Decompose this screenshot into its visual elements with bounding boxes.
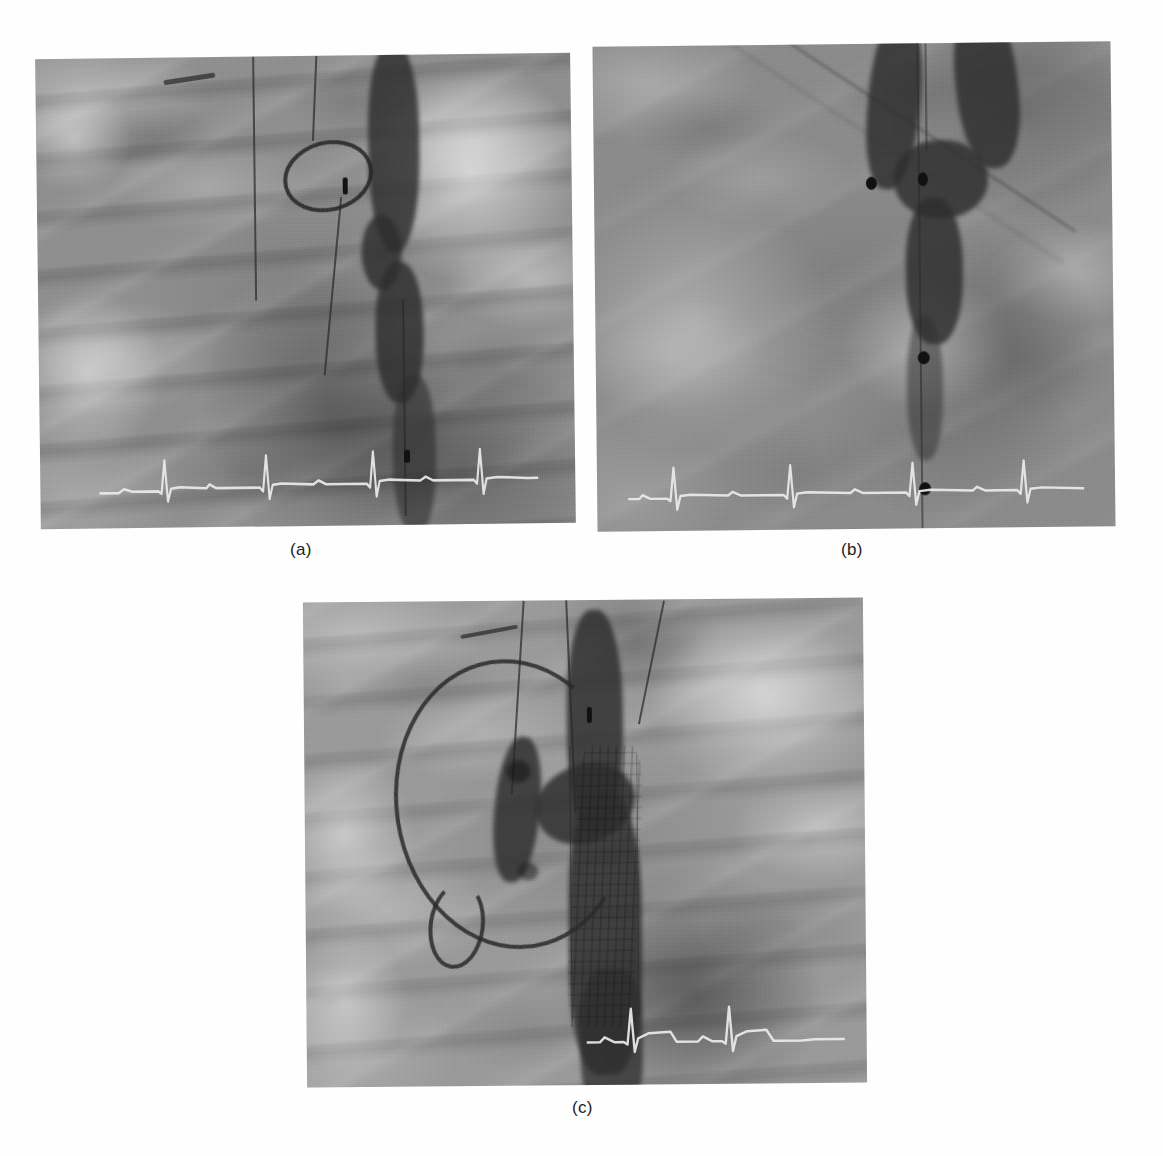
film-grain (303, 598, 867, 1088)
film-grain (592, 41, 1115, 531)
figure-root: (a) (0, 0, 1163, 1156)
xray-image-b (592, 41, 1115, 531)
panel-caption-b: (b) (841, 540, 863, 560)
angiogram-panel-a (35, 53, 576, 530)
panel-caption-a: (a) (290, 540, 312, 560)
angiogram-panel-b (592, 41, 1115, 531)
xray-image-a (35, 53, 576, 530)
xray-image-c (303, 598, 867, 1088)
film-grain (35, 53, 576, 530)
panel-caption-c: (c) (572, 1098, 593, 1118)
angiogram-panel-c (303, 598, 867, 1088)
